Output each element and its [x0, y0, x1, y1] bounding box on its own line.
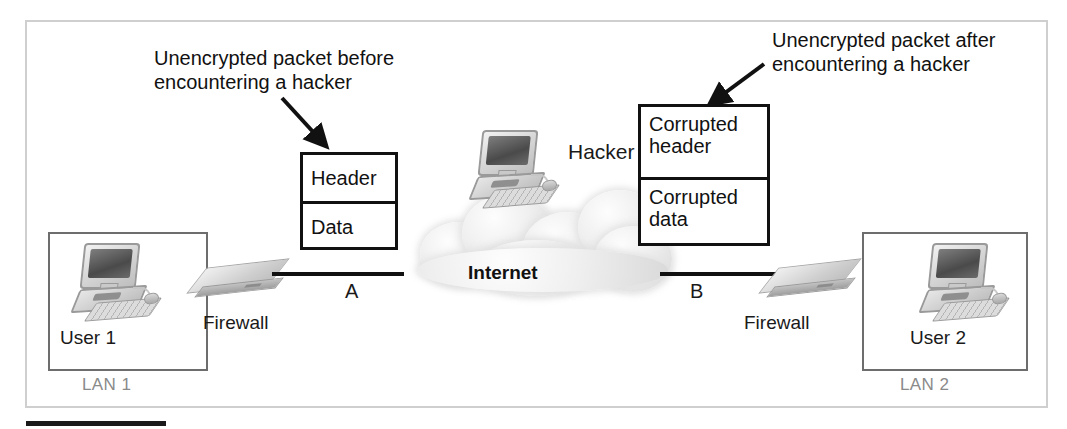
hacker-computer-icon	[468, 130, 560, 206]
user-1-computer-icon	[70, 243, 162, 319]
diagram-canvas: User 1 LAN 1 Firewall A Header Data Unen…	[0, 0, 1067, 429]
screen-icon	[936, 249, 981, 278]
internet-label: Internet	[468, 262, 538, 284]
annotation-after-hacker: Unencrypted packet after encountering a …	[772, 28, 1042, 77]
firewall-2-label: Firewall	[744, 312, 809, 334]
user-2-computer-icon	[918, 243, 1010, 319]
firewall-1-label: Firewall	[203, 312, 268, 334]
screen-icon	[88, 249, 133, 278]
caption-rule	[26, 421, 166, 426]
link-b-label: B	[690, 280, 703, 303]
lan-2-label: LAN 2	[900, 375, 949, 395]
corrupted-data-cell: Corrupted data	[641, 177, 767, 246]
annotation-right-arrow-icon	[690, 62, 780, 118]
annotation-left-arrow-icon	[280, 96, 360, 158]
packet-data-cell: Data	[303, 201, 395, 250]
user-2-label: User 2	[910, 327, 966, 349]
annotation-before-hacker: Unencrypted packet before encountering a…	[154, 46, 414, 95]
hacker-label: Hacker	[568, 140, 635, 164]
lan-1-label: LAN 1	[82, 375, 131, 395]
packet-header-cell: Header	[303, 155, 395, 201]
user-1-label: User 1	[60, 327, 116, 349]
unencrypted-packet-box: Header Data	[300, 152, 398, 250]
firewall-2-icon	[772, 263, 858, 297]
corrupted-packet-box: Corrupted header Corrupted data	[638, 104, 770, 246]
firewall-1-icon	[200, 263, 286, 297]
link-a-line	[272, 272, 404, 276]
screen-icon	[486, 136, 531, 165]
link-a-label: A	[345, 280, 358, 303]
